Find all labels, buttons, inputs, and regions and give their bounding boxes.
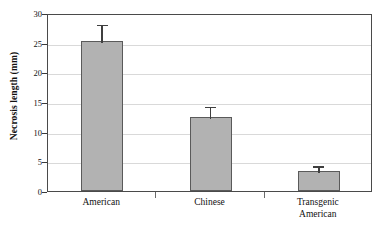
- y-axis-tick-label: 15: [26, 98, 42, 108]
- y-axis-tick-mark: [42, 192, 47, 193]
- bar: [190, 117, 232, 191]
- bar: [81, 41, 123, 191]
- y-axis-title-label: Necrosis length (mm): [9, 52, 19, 140]
- bar: [298, 171, 340, 191]
- error-bar-cap: [97, 25, 108, 26]
- x-axis-category-label: Transgenic American: [264, 197, 372, 220]
- x-axis-category-label: American: [47, 197, 155, 209]
- plot-area: [47, 14, 372, 192]
- y-axis-tick-label: 10: [26, 128, 42, 138]
- y-axis-tick-labels: 051015202530: [24, 0, 42, 232]
- x-axis-category-label: Chinese: [155, 197, 263, 209]
- y-axis-tick-label: 30: [26, 9, 42, 19]
- error-bar: [101, 25, 102, 43]
- y-axis-tick-label: 25: [26, 39, 42, 49]
- y-axis-tick-label: 0: [26, 187, 42, 197]
- bar-chart-figure: Necrosis length (mm) 051015202530 Americ…: [0, 0, 385, 232]
- error-bar-cap: [205, 107, 216, 108]
- error-bar: [210, 107, 211, 119]
- y-axis-tick-label: 5: [26, 157, 42, 167]
- error-bar-cap: [313, 166, 324, 167]
- y-axis-tick-label: 20: [26, 68, 42, 78]
- y-axis-title: Necrosis length (mm): [2, 0, 26, 192]
